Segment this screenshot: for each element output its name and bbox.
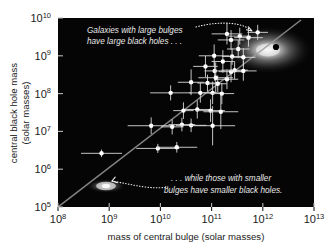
data-point xyxy=(229,38,233,42)
data-point xyxy=(168,91,172,95)
y-axis-title-line1: central black hole mass xyxy=(8,63,19,163)
data-point xyxy=(210,91,214,95)
data-point xyxy=(232,68,236,72)
data-point xyxy=(216,82,220,86)
data-point xyxy=(221,59,225,63)
x-axis-title: mass of central bulge (solar masses) xyxy=(108,231,265,242)
data-point xyxy=(170,125,174,129)
data-point xyxy=(213,76,217,80)
data-point xyxy=(241,69,245,73)
data-point xyxy=(220,91,224,95)
data-point xyxy=(189,80,193,84)
y-axis-title-line2: (solar masses) xyxy=(20,82,31,145)
data-point xyxy=(212,54,216,58)
data-point xyxy=(241,55,245,59)
annotation-bottom-line2: bulges have smaller black holes. xyxy=(164,186,282,195)
data-point xyxy=(175,145,179,149)
data-point xyxy=(180,122,184,126)
scatter-plot-svg: Galaxies with large bulges have large bl… xyxy=(0,0,332,250)
data-point xyxy=(236,47,240,51)
data-point xyxy=(225,32,229,36)
annotation-bottom-line1: . . . while those with smaller xyxy=(171,174,271,183)
data-point xyxy=(149,124,153,128)
data-point xyxy=(99,151,103,155)
data-point xyxy=(246,35,250,39)
central-black-hole-marker xyxy=(273,44,279,50)
data-point xyxy=(219,110,223,114)
data-point xyxy=(205,81,209,85)
data-point xyxy=(210,124,214,128)
data-point xyxy=(255,30,259,34)
annotation-top-line2: have large black holes . . . xyxy=(87,37,182,46)
data-point xyxy=(198,91,202,95)
data-point xyxy=(203,64,207,68)
figure-container: Galaxies with large bulges have large bl… xyxy=(0,0,332,250)
data-point xyxy=(230,54,234,58)
data-point xyxy=(212,69,216,73)
annotation-top-line1: Galaxies with large bulges xyxy=(87,26,183,35)
